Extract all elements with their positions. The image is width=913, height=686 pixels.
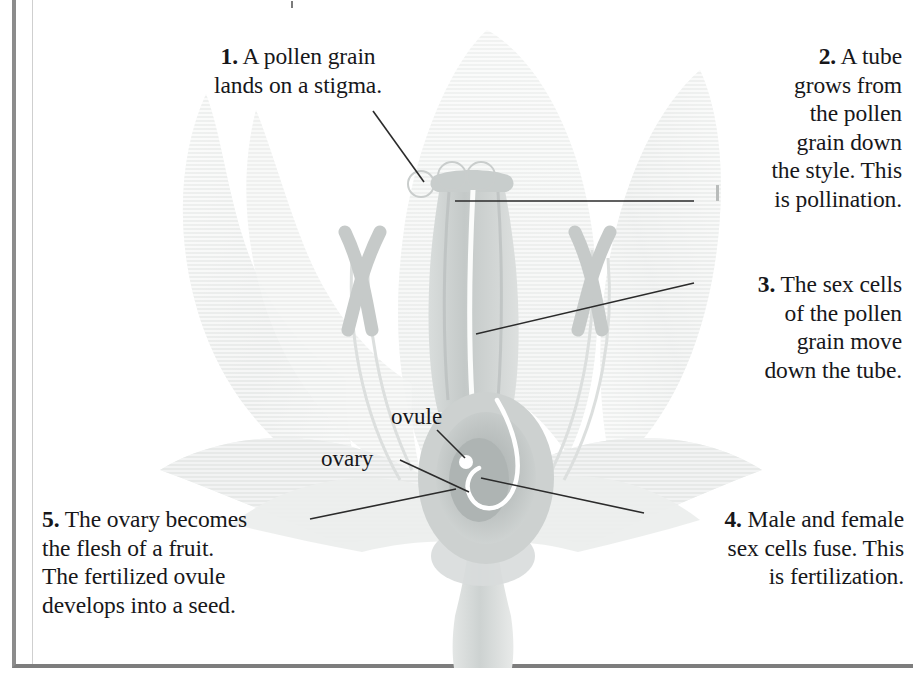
stigma xyxy=(431,170,514,192)
caption-step-3: 3. The sex cells of the pollen grain mov… xyxy=(688,270,902,384)
label-ovary: ovary xyxy=(321,446,373,472)
petal-group-left xyxy=(183,94,424,498)
leader-step1 xyxy=(373,111,424,182)
diagram-page: 1. A pollen grain lands on a stigma. 2. … xyxy=(0,0,913,686)
caption-step-2: 2. A tube grows from the pollen grain do… xyxy=(688,42,902,213)
caption-step-1: 1. A pollen grain lands on a stigma. xyxy=(148,42,448,99)
pistil-group xyxy=(429,170,519,412)
caption-step-4: 4. Male and female sex cells fuse. This … xyxy=(648,505,904,591)
ovule xyxy=(459,455,473,469)
caption-step-5-body: The ovary becomes the flesh of a fruit. … xyxy=(42,506,247,618)
caption-step-1-body: A pollen grain lands on a stigma. xyxy=(214,43,382,98)
caption-step-2-number: 2. xyxy=(819,43,836,69)
scan-artifact-mark xyxy=(291,1,293,8)
label-ovule: ovule xyxy=(391,404,442,430)
caption-step-3-number: 3. xyxy=(758,271,775,297)
caption-step-2-body: A tube grows from the pollen grain down … xyxy=(771,43,902,212)
caption-step-5: 5. The ovary becomes the flesh of a frui… xyxy=(42,505,342,619)
caption-step-5-number: 5. xyxy=(42,506,59,532)
caption-step-1-number: 1. xyxy=(221,43,238,69)
caption-step-4-number: 4. xyxy=(724,506,741,532)
caption-step-4-body: Male and female sex cells fuse. This is … xyxy=(728,506,904,589)
caption-step-3-body: The sex cells of the pollen grain move d… xyxy=(764,271,902,383)
